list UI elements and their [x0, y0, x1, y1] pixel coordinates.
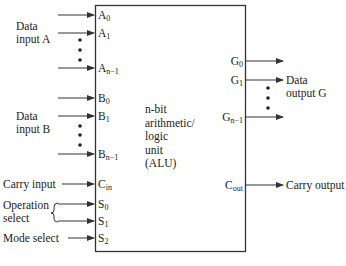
data-output-g-label: Data output G: [286, 74, 327, 100]
pin-g0: G0: [231, 55, 243, 71]
alu-line-2: arithmetic/: [145, 117, 195, 131]
pin-s0: S0: [98, 198, 108, 214]
data-input-a-label: Data input A: [16, 20, 50, 46]
a-ellipsis-icon: [78, 38, 82, 62]
alu-line-4: unit: [145, 144, 195, 158]
data-output-g-line1: Data: [286, 74, 327, 87]
pin-cin: Cin: [98, 178, 112, 194]
pin-an1: An−1: [98, 62, 119, 78]
g-ellipsis-icon: [266, 86, 270, 110]
operation-select-line1: Operation: [3, 199, 49, 212]
data-input-b-line2: input B: [16, 123, 50, 136]
pin-cout: Cout: [225, 179, 243, 195]
data-input-a-line2: input A: [16, 33, 50, 46]
pin-s1: S1: [98, 215, 108, 231]
carry-input-label: Carry input: [3, 178, 56, 191]
alu-line-1: n-bit: [145, 103, 195, 117]
brace-icon: [51, 203, 58, 222]
alu-line-5: (ALU): [145, 157, 195, 171]
mode-select-label: Mode select: [3, 232, 59, 245]
pin-b1: B1: [98, 110, 110, 126]
data-input-a-line1: Data: [16, 20, 50, 33]
pin-b0: B0: [98, 92, 110, 108]
carry-output-label: Carry output: [286, 179, 344, 192]
pin-g1: G1: [231, 74, 243, 90]
data-output-g-line2: output G: [286, 87, 327, 100]
operation-select-line2: select: [3, 212, 49, 225]
pin-bn1: Bn−1: [98, 148, 118, 164]
data-input-b-line1: Data: [16, 110, 50, 123]
pin-a0: A0: [98, 9, 110, 25]
operation-select-label: Operation select: [3, 199, 49, 225]
data-input-b-label: Data input B: [16, 110, 50, 136]
pin-a1: A1: [98, 27, 110, 43]
alu-line-3: logic: [145, 130, 195, 144]
pin-gn1: Gn−1: [222, 111, 243, 127]
b-ellipsis-icon: [78, 124, 82, 147]
pin-s2: S2: [98, 232, 108, 248]
alu-description: n-bit arithmetic/ logic unit (ALU): [145, 103, 195, 171]
